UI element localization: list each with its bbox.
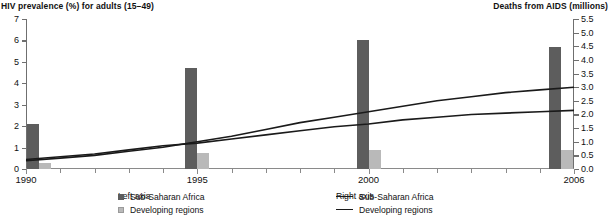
legend-item-label: Developing regions bbox=[130, 205, 204, 215]
x-tick-mark bbox=[129, 169, 130, 173]
right-tick-label: 1.5 bbox=[581, 123, 594, 133]
right-tick-mark bbox=[574, 19, 579, 20]
legend-item[interactable]: Sub-Saharan Africa bbox=[336, 190, 434, 203]
right-tick-mark bbox=[574, 142, 579, 143]
chart-legend: Left axis Sub-Saharan AfricaDeveloping r… bbox=[0, 190, 609, 223]
legend-square-swatch-icon bbox=[118, 194, 124, 200]
x-tick-label: 1990 bbox=[15, 174, 36, 185]
x-tick-mark bbox=[300, 169, 301, 173]
chart-container: HIV prevalence (%) for adults (15–49) De… bbox=[0, 0, 609, 223]
right-tick-mark bbox=[574, 87, 579, 88]
x-tick-mark bbox=[471, 169, 472, 173]
legend-line-swatch-icon bbox=[336, 209, 353, 211]
right-tick-mark bbox=[574, 74, 579, 75]
left-tick-label: 0 bbox=[14, 164, 19, 174]
x-tick-mark bbox=[403, 169, 404, 173]
line-series-layer bbox=[26, 19, 574, 169]
right-tick-label: 0.0 bbox=[581, 164, 594, 174]
x-tick-label: 2006 bbox=[563, 174, 584, 185]
legend-item-label: Sub-Saharan Africa bbox=[130, 192, 205, 202]
x-tick-mark bbox=[163, 169, 164, 173]
x-tick-mark bbox=[506, 169, 507, 173]
legend-left-axis-items: Sub-Saharan AfricaDeveloping regions bbox=[118, 190, 205, 216]
legend-item-label: Sub-Saharan Africa bbox=[359, 192, 434, 202]
legend-line-swatch-icon bbox=[336, 196, 353, 198]
x-tick-mark bbox=[232, 169, 233, 173]
x-tick-mark bbox=[95, 169, 96, 173]
plot-area: 01234567 0.00.51.01.52.02.53.03.54.04.55… bbox=[26, 19, 574, 169]
x-tick-mark bbox=[334, 169, 335, 173]
x-tick-mark bbox=[266, 169, 267, 173]
right-tick-mark bbox=[574, 46, 579, 47]
left-tick-label: 5 bbox=[14, 57, 19, 67]
left-tick-label: 1 bbox=[14, 143, 19, 153]
legend-item[interactable]: Developing regions bbox=[336, 203, 434, 216]
x-tick-mark bbox=[60, 169, 61, 173]
right-tick-label: 5.5 bbox=[581, 14, 594, 24]
right-tick-label: 1.0 bbox=[581, 137, 594, 147]
right-axis-title: Deaths from AIDS (millions) bbox=[493, 1, 608, 11]
right-tick-label: 3.0 bbox=[581, 82, 594, 92]
right-tick-mark bbox=[574, 60, 579, 61]
right-tick-label: 2.5 bbox=[581, 96, 594, 106]
x-tick-mark bbox=[540, 169, 541, 173]
line-developing-regions bbox=[26, 110, 574, 159]
right-tick-mark bbox=[574, 101, 579, 102]
right-tick-label: 0.5 bbox=[581, 150, 594, 160]
legend-item-label: Developing regions bbox=[359, 205, 433, 215]
x-tick-label: 2000 bbox=[358, 174, 379, 185]
x-tick-label: 1995 bbox=[187, 174, 208, 185]
right-tick-mark bbox=[574, 128, 579, 129]
right-tick-label: 4.0 bbox=[581, 55, 594, 65]
left-tick-label: 3 bbox=[14, 100, 19, 110]
x-tick-mark bbox=[437, 169, 438, 173]
legend-square-swatch-icon bbox=[118, 207, 124, 213]
left-axis-title: HIV prevalence (%) for adults (15–49) bbox=[1, 1, 154, 11]
right-tick-mark bbox=[574, 33, 579, 34]
left-tick-label: 6 bbox=[14, 35, 19, 45]
right-tick-mark bbox=[574, 155, 579, 156]
right-tick-mark bbox=[574, 114, 579, 115]
legend-right-axis-items: Sub-Saharan AfricaDeveloping regions bbox=[336, 190, 434, 216]
left-tick-label: 4 bbox=[14, 78, 19, 88]
right-tick-label: 3.5 bbox=[581, 69, 594, 79]
left-tick-label: 2 bbox=[14, 121, 19, 131]
right-tick-label: 5.0 bbox=[581, 28, 594, 38]
legend-item[interactable]: Sub-Saharan Africa bbox=[118, 190, 205, 203]
line-sub-saharan-africa bbox=[26, 87, 574, 161]
right-tick-label: 4.5 bbox=[581, 41, 594, 51]
right-tick-label: 2.0 bbox=[581, 109, 594, 119]
legend-item[interactable]: Developing regions bbox=[118, 203, 205, 216]
left-tick-label: 7 bbox=[14, 14, 19, 24]
